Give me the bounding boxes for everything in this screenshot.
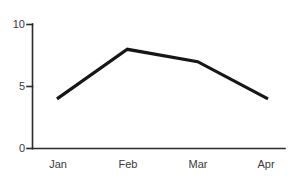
- y-tick-label-0: 0: [19, 142, 25, 154]
- x-tick-label-jan: Jan: [49, 158, 67, 170]
- y-tick-label-10: 10: [13, 18, 25, 30]
- y-tick-label-5: 5: [19, 80, 25, 92]
- line-chart: 10 5 0 Jan Feb Mar Apr: [0, 0, 297, 182]
- x-tick-label-mar: Mar: [189, 158, 208, 170]
- x-tick-label-apr: Apr: [257, 158, 274, 170]
- x-tick-label-feb: Feb: [119, 158, 138, 170]
- chart-plot-area: 10 5 0 Jan Feb Mar Apr: [0, 0, 297, 182]
- data-series-line: [57, 49, 268, 99]
